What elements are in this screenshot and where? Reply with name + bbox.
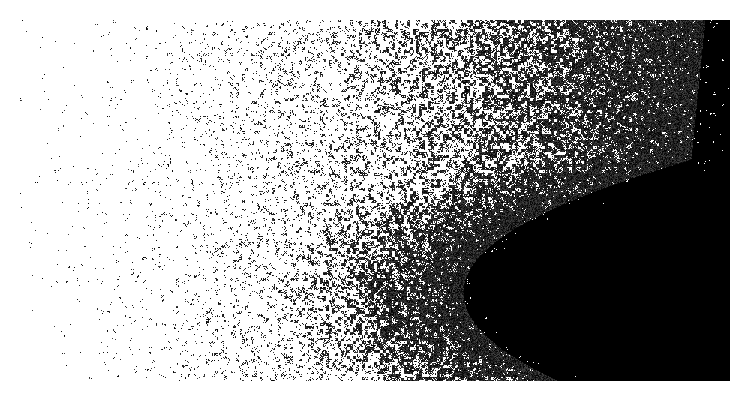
stipple-noise-field xyxy=(20,20,730,381)
image-canvas xyxy=(0,0,748,408)
